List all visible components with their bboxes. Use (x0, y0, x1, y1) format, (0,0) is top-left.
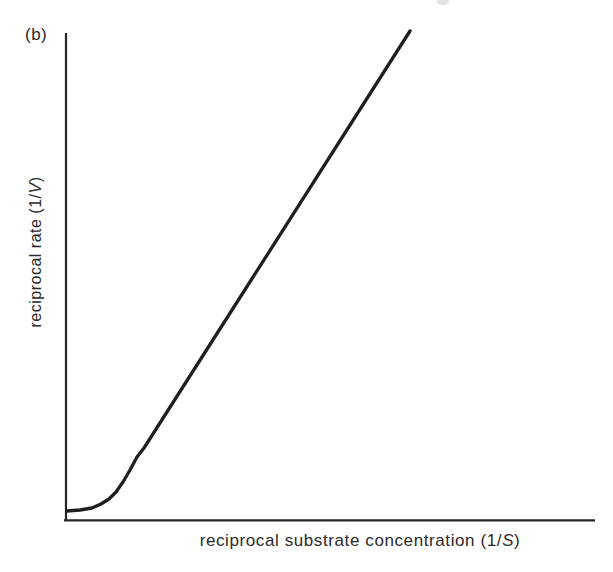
x-axis-label: reciprocal substrate concentration (1/S) (200, 531, 521, 551)
data-curve (67, 31, 410, 511)
x-axis-label-variable: S (502, 531, 514, 550)
y-axis-label-variable: V (27, 182, 44, 193)
plot-canvas (0, 0, 613, 572)
y-axis-label-suffix: ) (27, 177, 44, 183)
y-axis-label: reciprocal rate (1/V) (27, 177, 45, 328)
figure-panel-b: (b) reciprocal rate (1/V) reciprocal sub… (0, 0, 613, 572)
x-axis-label-text: reciprocal substrate concentration (1/ (200, 531, 503, 550)
y-axis-label-text: reciprocal rate (1/ (27, 194, 44, 328)
x-axis-label-suffix: ) (514, 531, 520, 550)
